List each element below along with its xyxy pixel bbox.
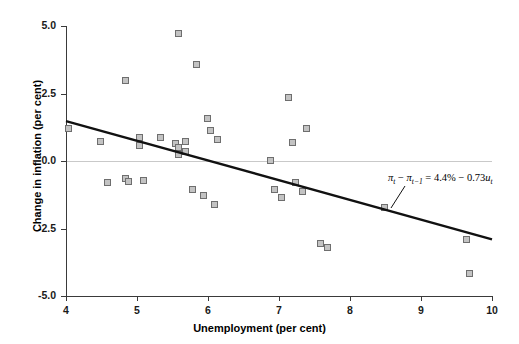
data-point-marker — [175, 151, 182, 158]
x-axis-tick — [208, 296, 209, 301]
equation-constant: 4.4% — [434, 172, 456, 183]
y-axis-tick-label: -5.0 — [8, 289, 56, 301]
x-axis-tick — [350, 296, 351, 301]
data-point-marker — [200, 192, 207, 199]
data-point-marker — [292, 179, 299, 186]
data-point-marker — [125, 178, 132, 185]
data-point-marker — [104, 179, 111, 186]
data-point-marker — [324, 244, 331, 251]
data-point-marker — [136, 142, 143, 149]
data-point-marker — [278, 194, 285, 201]
data-point-marker — [285, 94, 292, 101]
data-point-marker — [271, 186, 278, 193]
data-point-marker — [136, 134, 143, 141]
x-axis-tick — [137, 296, 138, 301]
x-axis-tick — [279, 296, 280, 301]
data-point-marker — [182, 148, 189, 155]
x-axis-tick-label: 9 — [401, 304, 441, 316]
x-axis-tick-label: 4 — [46, 304, 86, 316]
x-axis-tick-label: 6 — [188, 304, 228, 316]
x-axis-tick-label: 5 — [117, 304, 157, 316]
data-point-marker — [289, 139, 296, 146]
data-point-marker — [175, 30, 182, 37]
y-axis-tick-label: 5.0 — [8, 19, 56, 31]
x-axis-tick-label: 8 — [330, 304, 370, 316]
equation-equals: = — [423, 172, 434, 183]
data-point-marker — [381, 204, 388, 211]
x-axis-tick-label: 10 — [472, 304, 512, 316]
data-point-marker — [140, 177, 147, 184]
y-axis-tick — [61, 296, 67, 297]
equation-u-t: ut — [485, 172, 492, 183]
data-point-marker — [157, 134, 164, 141]
x-axis-tick — [492, 296, 493, 301]
x-axis-tick-label: 7 — [259, 304, 299, 316]
data-point-marker — [299, 188, 306, 195]
data-point-marker — [97, 138, 104, 145]
equation-pi-t-1: πt−1 — [407, 172, 423, 183]
regression-equation-label: πt − πt−1 = 4.4% − 0.73ut — [388, 172, 493, 186]
x-axis-tick — [421, 296, 422, 301]
y-axis-title: Change in inflation (per cent) — [31, 56, 43, 256]
data-point-marker — [204, 115, 211, 122]
equation-minus: − — [395, 172, 406, 183]
scatter-plot-area — [66, 26, 492, 296]
equation-coefficient: − 0.73 — [456, 172, 486, 183]
data-point-marker — [267, 157, 274, 164]
data-point-marker — [122, 77, 129, 84]
data-point-marker — [65, 125, 72, 132]
data-point-marker — [211, 201, 218, 208]
chart-figure: 456789105.02.50.0-2.5-5.0 πt − πt−1 = 4.… — [0, 0, 519, 344]
data-point-marker — [214, 136, 221, 143]
data-point-marker — [182, 138, 189, 145]
data-point-marker — [466, 270, 473, 277]
data-point-marker — [317, 240, 324, 247]
data-point-marker — [189, 186, 196, 193]
data-point-marker — [463, 236, 470, 243]
data-point-marker — [303, 125, 310, 132]
x-axis-title: Unemployment (per cent) — [0, 322, 519, 334]
data-point-marker — [193, 61, 200, 68]
data-point-marker — [207, 127, 214, 134]
